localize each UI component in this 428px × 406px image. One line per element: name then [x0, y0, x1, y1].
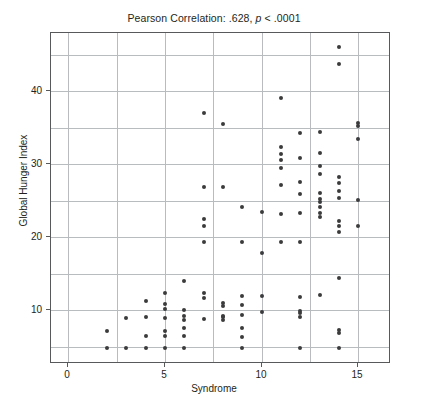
- chart-title: Pearson Correlation: .628, p < .0001: [0, 12, 428, 24]
- data-point: [240, 205, 244, 209]
- gridline-horizontal: [51, 164, 389, 165]
- data-point: [144, 299, 148, 303]
- data-point: [240, 294, 244, 298]
- y-tick-mark: [46, 163, 50, 164]
- gridline-vertical: [165, 33, 166, 362]
- data-point: [182, 326, 186, 330]
- y-tick-label: 10: [22, 304, 42, 315]
- data-point: [202, 240, 206, 244]
- y-tick-mark: [46, 309, 50, 310]
- gridline-horizontal: [51, 201, 389, 202]
- y-tick-label: 40: [22, 85, 42, 96]
- data-point: [124, 316, 128, 320]
- x-axis-label: Syndrome: [0, 383, 428, 394]
- data-point: [279, 166, 283, 170]
- gridline-horizontal: [51, 128, 389, 129]
- data-point: [240, 313, 244, 317]
- data-point: [318, 215, 322, 219]
- data-point: [337, 230, 341, 234]
- data-point: [337, 62, 341, 66]
- y-tick-mark: [46, 90, 50, 91]
- x-tick-mark: [261, 363, 262, 367]
- data-point: [202, 296, 206, 300]
- data-point: [318, 197, 322, 201]
- data-point: [202, 111, 206, 115]
- data-point: [337, 181, 341, 185]
- data-point: [182, 346, 186, 350]
- data-point: [221, 122, 225, 126]
- data-point: [298, 156, 302, 160]
- data-point: [240, 303, 244, 307]
- data-point: [182, 279, 186, 283]
- data-point: [298, 315, 302, 319]
- data-point: [279, 240, 283, 244]
- gridline-horizontal: [51, 310, 389, 311]
- x-tick-label: 15: [351, 369, 362, 380]
- data-point: [202, 224, 206, 228]
- data-point: [337, 196, 341, 200]
- data-point: [318, 211, 322, 215]
- data-point: [279, 96, 283, 100]
- data-point: [144, 315, 148, 319]
- data-point: [318, 130, 322, 134]
- data-point: [298, 131, 302, 135]
- data-point: [337, 276, 341, 280]
- gridline-horizontal: [51, 274, 389, 275]
- data-point: [298, 346, 302, 350]
- chart-title-prefix: Pearson Correlation: .628,: [127, 12, 255, 24]
- data-point: [298, 192, 302, 196]
- data-point: [298, 240, 302, 244]
- data-point: [221, 314, 225, 318]
- data-point: [163, 346, 167, 350]
- data-point: [318, 191, 322, 195]
- data-point: [337, 224, 341, 228]
- plot-area: [51, 33, 389, 362]
- data-point: [163, 329, 167, 333]
- data-point: [202, 185, 206, 189]
- data-point: [356, 137, 360, 141]
- gridline-vertical: [213, 33, 214, 362]
- scatter-plot-figure: Pearson Correlation: .628, p < .0001 051…: [0, 0, 428, 406]
- data-point: [182, 334, 186, 338]
- data-point: [221, 185, 225, 189]
- gridline-vertical: [117, 33, 118, 362]
- data-point: [240, 346, 244, 350]
- data-point: [221, 301, 225, 305]
- gridline-horizontal: [51, 91, 389, 92]
- data-point: [337, 328, 341, 332]
- data-point: [318, 172, 322, 176]
- data-point: [298, 180, 302, 184]
- data-point: [105, 329, 109, 333]
- x-tick-label: 0: [64, 369, 70, 380]
- gridline-horizontal: [51, 55, 389, 56]
- x-tick-label: 5: [161, 369, 167, 380]
- x-tick-mark: [357, 363, 358, 367]
- y-axis-label: Global Hunger Index: [18, 101, 29, 261]
- x-tick-mark: [164, 363, 165, 367]
- data-point: [105, 346, 109, 350]
- x-tick-label: 10: [255, 369, 266, 380]
- data-point: [260, 251, 264, 255]
- data-point: [318, 164, 322, 168]
- data-point: [163, 291, 167, 295]
- data-point: [144, 346, 148, 350]
- data-point: [144, 334, 148, 338]
- data-point: [260, 310, 264, 314]
- data-point: [279, 212, 283, 216]
- data-point: [163, 316, 167, 320]
- data-point: [356, 121, 360, 125]
- data-point: [182, 308, 186, 312]
- data-point: [163, 334, 167, 338]
- data-point: [337, 45, 341, 49]
- plot-frame: [50, 32, 390, 363]
- data-point: [279, 145, 283, 149]
- data-point: [337, 219, 341, 223]
- data-point: [318, 205, 322, 209]
- data-point: [202, 317, 206, 321]
- data-point: [124, 346, 128, 350]
- chart-title-suffix: < .0001: [262, 12, 301, 24]
- data-point: [182, 318, 186, 322]
- data-point: [298, 295, 302, 299]
- data-point: [318, 151, 322, 155]
- data-point: [202, 291, 206, 295]
